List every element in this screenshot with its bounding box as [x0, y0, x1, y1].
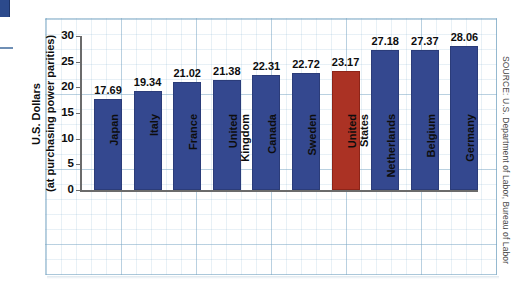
category-label-text: Belgium [425, 114, 437, 196]
category-label-text: UnitedKingdom [227, 114, 251, 196]
bar-chart: 302520151050 17.6919.3421.0221.3822.3122… [80, 36, 478, 191]
source-note-text: SOURCE: U.S. Department of Labor, Bureau… [501, 56, 511, 264]
category-label-netherlands: Netherlands [371, 196, 399, 280]
category-label-text: Canada [266, 114, 278, 196]
y-tick-mark [76, 62, 80, 63]
source-note: SOURCE: U.S. Department of Labor, Bureau… [497, 56, 517, 286]
y-tick-15: 15 [48, 107, 74, 119]
tick-mark-icon [0, 47, 13, 49]
category-label-belgium: Belgium [411, 196, 439, 280]
y-tick-30: 30 [48, 30, 74, 42]
bar-series: 17.6919.3421.0221.3822.3122.7223.1727.18… [82, 36, 478, 190]
category-label-japan: Japan [94, 196, 122, 280]
category-label-text: Italy [148, 114, 160, 196]
category-label-text: France [187, 114, 199, 196]
bar-value-label: 28.06 [441, 31, 487, 43]
bar-value-label: 23.17 [323, 56, 369, 68]
category-label-canada: Canada [252, 196, 280, 280]
y-tick-5: 5 [48, 158, 74, 170]
category-label-united-kingdom: UnitedKingdom [213, 196, 241, 280]
category-label-text: Sweden [306, 114, 318, 196]
category-label-text: UnitedStates [346, 114, 370, 196]
y-tick-10: 10 [48, 133, 74, 145]
category-label-text: Japan [108, 114, 120, 196]
y-tick-mark [76, 164, 80, 165]
y-tick-mark [76, 190, 80, 191]
category-label-italy: Italy [134, 196, 162, 280]
y-tick-mark [76, 113, 80, 114]
category-label-united-states: UnitedStates [332, 196, 360, 280]
y-tick-mark [76, 87, 80, 88]
y-tick-20: 20 [48, 81, 74, 93]
category-label-france: France [173, 196, 201, 280]
y-axis-title-line-1: U.S. Dollars [30, 36, 42, 192]
blue-square-icon [0, 0, 10, 17]
y-tick-25: 25 [48, 56, 74, 68]
y-tick-mark [76, 139, 80, 140]
category-label-sweden: Sweden [292, 196, 320, 280]
x-axis-line [80, 190, 478, 192]
category-label-text: Netherlands [385, 114, 397, 196]
category-label-text: Germany [464, 114, 476, 196]
y-tick-mark [76, 36, 80, 37]
y-tick-0: 0 [48, 184, 74, 196]
category-label-germany: Germany [450, 196, 478, 280]
